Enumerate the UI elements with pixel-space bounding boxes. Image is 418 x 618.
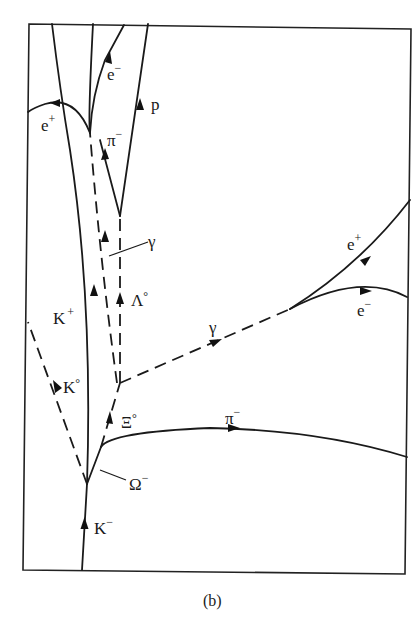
track-pi-minus-right bbox=[101, 428, 407, 457]
arrow-gamma-top bbox=[101, 230, 109, 242]
arrow-k0 bbox=[53, 380, 62, 393]
track-pi-minus-top bbox=[100, 140, 120, 216]
label-pi-minus-right: π− bbox=[225, 405, 241, 428]
leader-omega-minus bbox=[100, 470, 126, 480]
label-lambda0: Λ° bbox=[131, 289, 148, 310]
label-k0: K° bbox=[63, 376, 80, 397]
track-gamma-top bbox=[90, 133, 117, 383]
track-e-plus-top bbox=[28, 102, 90, 133]
bubble-chamber-diagram: e+ e− p π− γ Λ° K+ K° Ξ° Ω− K− γ e+ e− π… bbox=[0, 0, 418, 618]
label-k-minus: K− bbox=[94, 515, 113, 538]
arrow-lambda0 bbox=[116, 292, 124, 304]
label-e-plus-top: e+ bbox=[41, 112, 56, 135]
label-e-minus-top: e− bbox=[107, 61, 122, 84]
label-e-minus-right: e− bbox=[357, 297, 372, 320]
track-gamma-right bbox=[120, 309, 290, 383]
label-proton: p bbox=[151, 95, 160, 114]
figure-caption: (b) bbox=[203, 592, 222, 610]
track-k0 bbox=[28, 322, 87, 484]
label-xi0: Ξ° bbox=[121, 411, 137, 432]
label-gamma-top: γ bbox=[147, 232, 156, 251]
track-e-plus-right bbox=[290, 200, 410, 309]
arrow-k-plus bbox=[90, 284, 98, 296]
track-proton bbox=[120, 24, 148, 216]
label-omega-minus: Ω− bbox=[129, 471, 149, 494]
arrow-e-minus-right bbox=[360, 287, 372, 295]
label-e-plus-right: e+ bbox=[347, 231, 362, 254]
arrow-e-plus-top bbox=[50, 99, 60, 107]
chamber-frame bbox=[23, 24, 411, 574]
label-gamma-right: γ bbox=[208, 318, 217, 337]
label-pi-minus-top: π− bbox=[107, 127, 123, 150]
arrow-xi0 bbox=[106, 411, 113, 424]
label-k-plus: K+ bbox=[53, 305, 74, 328]
track-omega-minus bbox=[87, 447, 101, 484]
leader-gamma-top bbox=[109, 242, 148, 256]
arrow-e-plus-right bbox=[360, 256, 371, 266]
arrow-k-minus bbox=[81, 517, 89, 529]
arrow-gamma-right bbox=[209, 339, 222, 347]
track-k-plus bbox=[52, 24, 88, 484]
